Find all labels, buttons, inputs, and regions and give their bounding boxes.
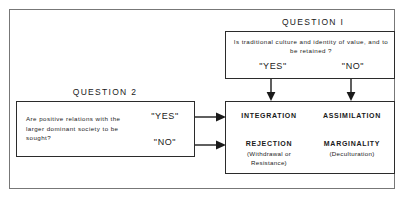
question-1-prompt: Is traditional culture and identity of v… [230,37,392,55]
outcome-rejection-title: REJECTION [229,140,309,147]
outcome-integration-title: INTEGRATION [229,112,309,119]
question-2-yes-label: "YES" [139,111,191,121]
question-2-heading: QUESTION 2 [30,87,180,97]
outcome-marginality-title: MARGINALITY [312,140,392,147]
outcome-marginality-subtitle: (Deculturation) [312,149,392,158]
outcome-rejection: REJECTION (Withdrawal or Resistance) [229,140,309,167]
arrow-question1-no-down-icon [345,79,357,102]
arrow-question2-yes-right-icon [195,111,227,123]
outcome-marginality: MARGINALITY (Deculturation) [312,140,392,158]
outcomes-box: INTEGRATION ASSIMILATION REJECTION (With… [225,101,395,174]
question-1-yes-label: "YES" [242,61,304,71]
outcome-assimilation: ASSIMILATION [312,112,392,121]
question-1-box: Is traditional culture and identity of v… [225,31,395,79]
arrow-question2-no-right-icon [195,139,227,151]
question-1-no-label: "NO" [322,61,384,71]
outcome-integration: INTEGRATION [229,112,309,121]
question-1-heading: QUESTION I [238,17,388,27]
question-2-no-label: "NO" [139,137,191,147]
arrow-question1-yes-down-icon [265,79,277,102]
outcome-assimilation-title: ASSIMILATION [312,112,392,119]
acculturation-diagram: QUESTION I Is traditional culture and id… [0,0,411,206]
question-2-prompt: Are positive relations with the larger d… [26,114,138,143]
outcome-rejection-subtitle: (Withdrawal or Resistance) [229,149,309,167]
question-2-box: Are positive relations with the larger d… [16,101,195,157]
